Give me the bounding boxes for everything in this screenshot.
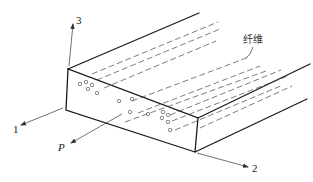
fiber-line — [132, 57, 249, 101]
fiber-label: 纤维 — [243, 33, 263, 45]
fiber-dot — [95, 91, 98, 94]
top-back-edge — [68, 13, 199, 69]
axis-1-label: 1 — [13, 123, 19, 135]
fiber-line — [104, 41, 216, 88]
fiber-line — [200, 86, 292, 128]
axis-3-arrow — [69, 24, 73, 66]
fiber-dot — [78, 82, 81, 85]
bottom-right-edge — [195, 99, 307, 152]
fiber-dot — [90, 83, 93, 86]
fiber-dot — [130, 97, 133, 100]
fiber-line — [175, 85, 283, 130]
load-p-arrow — [71, 114, 122, 143]
fiber-lamina-diagram: 3 1 P 2 纤维 — [0, 0, 313, 182]
top-right-edge — [198, 64, 310, 118]
labels: 3 1 P 2 纤维 — [13, 14, 263, 174]
axis-2-arrow — [197, 153, 248, 167]
fiber-dot — [84, 80, 87, 83]
fiber-dot — [166, 120, 169, 123]
fiber-line — [138, 66, 260, 113]
fiber-leader-line — [246, 47, 253, 58]
axis-3-label: 3 — [76, 14, 82, 26]
axis-1-arrow — [21, 108, 63, 125]
load-p-label: P — [57, 141, 65, 153]
fiber-dot — [168, 128, 171, 131]
fiber-dot — [128, 110, 131, 113]
fiber-dot — [160, 116, 163, 119]
fiber-line — [97, 29, 220, 80]
fiber-line — [170, 70, 281, 115]
axis-2-label: 2 — [252, 162, 258, 174]
fiber-dot — [161, 110, 164, 113]
fiber-dot — [117, 99, 120, 102]
fiber-dot — [86, 87, 89, 90]
slab-outline — [66, 13, 310, 152]
fiber-dot — [166, 113, 169, 116]
fiber-cross-sections — [78, 80, 171, 131]
front-face-edge — [66, 69, 198, 152]
